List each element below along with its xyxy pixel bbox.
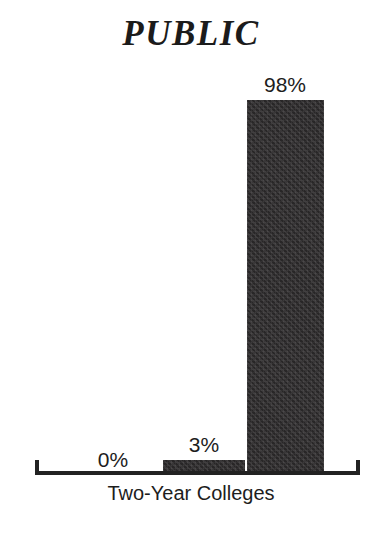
plot-area: 0% 3% 98% <box>0 0 382 475</box>
x-axis-cap-right <box>356 460 360 475</box>
bar-value-label-1: 3% <box>163 433 245 457</box>
bar-value-label-2: 98% <box>246 73 324 97</box>
x-axis <box>35 469 360 475</box>
x-axis-line <box>35 471 360 475</box>
x-axis-label: Two-Year Colleges <box>0 482 382 505</box>
x-axis-cap-left <box>35 460 39 475</box>
bar-ninety-eight-percent <box>247 100 324 475</box>
bar-chart-figure: PUBLIC 0% 3% 98% Two-Year Colleges <box>0 0 382 535</box>
